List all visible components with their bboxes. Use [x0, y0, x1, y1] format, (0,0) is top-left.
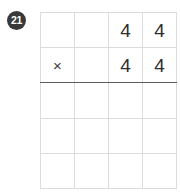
multiplication-sign-icon: × — [53, 58, 62, 73]
worksheet-problem: 21 4 4 × 4 4 — [0, 0, 180, 192]
cell-value: 4 — [120, 56, 131, 75]
grid-cell-r1c2[interactable] — [75, 13, 109, 48]
grid-cell-r3c4[interactable] — [143, 83, 177, 118]
grid-row-5 — [41, 153, 177, 188]
operator-cell[interactable]: × — [41, 48, 75, 83]
grid-row-3 — [41, 83, 177, 118]
grid-cell-r3c3[interactable] — [109, 83, 143, 118]
grid-cell-r5c3[interactable] — [109, 153, 143, 188]
grid-cell-r3c1[interactable] — [41, 83, 75, 118]
grid-row-1: 4 4 — [41, 13, 177, 48]
grid-cell-r1c3[interactable]: 4 — [109, 13, 143, 48]
grid-cell-r5c2[interactable] — [75, 153, 109, 188]
grid-cell-r4c1[interactable] — [41, 118, 75, 153]
problem-number-label: 21 — [11, 15, 22, 26]
cell-value: 4 — [154, 21, 165, 40]
grid-cell-r4c3[interactable] — [109, 118, 143, 153]
grid-cell-r5c4[interactable] — [143, 153, 177, 188]
cell-value: 4 — [120, 21, 131, 40]
grid-cell-r2c3[interactable]: 4 — [109, 48, 143, 83]
grid-cell-r3c2[interactable] — [75, 83, 109, 118]
grid-cell-r4c4[interactable] — [143, 118, 177, 153]
calculation-grid: 4 4 × 4 4 — [40, 12, 177, 189]
grid-cell-r4c2[interactable] — [75, 118, 109, 153]
grid-cell-r1c4[interactable]: 4 — [143, 13, 177, 48]
grid-row-4 — [41, 118, 177, 153]
problem-number-badge: 21 — [7, 11, 26, 30]
grid-cell-r1c1[interactable] — [41, 13, 75, 48]
cell-value: 4 — [154, 56, 165, 75]
grid-row-2: × 4 4 — [41, 48, 177, 83]
grid-cell-r2c2[interactable] — [75, 48, 109, 83]
grid-cell-r2c4[interactable]: 4 — [143, 48, 177, 83]
grid-cell-r5c1[interactable] — [41, 153, 75, 188]
